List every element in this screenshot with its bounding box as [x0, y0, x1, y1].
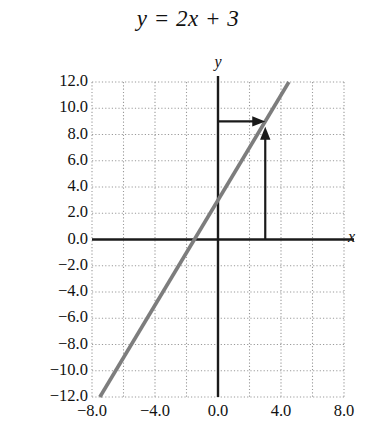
x-tick-label: 4.0 [251, 403, 311, 419]
x-tick-label: 0.0 [188, 403, 248, 419]
line-chart: y = 2x + 3 y x 12.010.08.06.04.02.00.0−2… [0, 0, 376, 434]
x-tick-labels: −8.0−4.00.04.08.0 [0, 0, 376, 434]
x-tick-label: −8.0 [62, 403, 122, 419]
x-tick-label: −4.0 [125, 403, 185, 419]
x-tick-label: 8.0 [314, 403, 374, 419]
